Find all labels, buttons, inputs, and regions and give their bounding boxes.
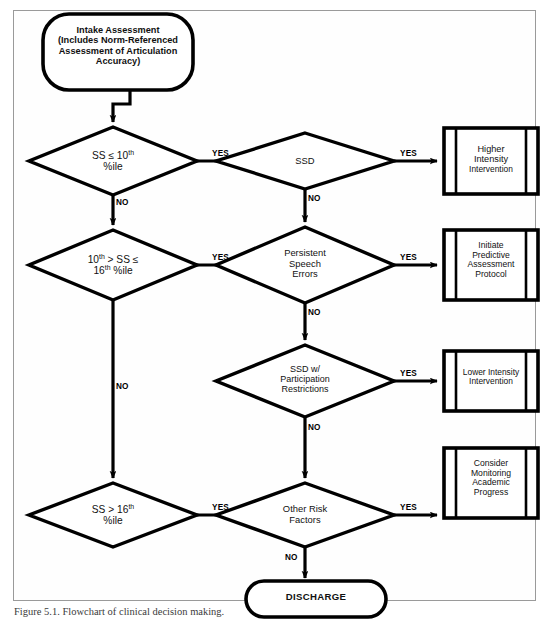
figure-caption: Figure 5.1. Flowchart of clinical decisi… (14, 606, 534, 617)
figure-root: Intake Assessment (Includes Norm-Referen… (0, 0, 550, 620)
decision-risk-shape (216, 483, 394, 547)
decision-ss10-shape (29, 127, 197, 195)
process-lower-shape (444, 351, 538, 411)
decision-participation-shape (216, 345, 394, 417)
decision-ss16-shape (29, 230, 197, 300)
start-node-shape (43, 14, 193, 90)
decision-persistent-shape (216, 227, 394, 303)
flowchart-canvas (0, 0, 550, 620)
process-higher-shape (444, 128, 538, 194)
decision-ssgt16-shape (29, 483, 197, 547)
decision-ssd-shape (216, 133, 394, 189)
process-initiate-shape (444, 230, 538, 300)
process-monitor-shape (444, 448, 538, 518)
connector-start-to-ss10 (113, 90, 130, 122)
